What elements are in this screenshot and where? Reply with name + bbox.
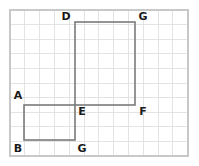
label-b: B <box>14 142 22 155</box>
figure-canvas: D G A E F B G <box>0 0 199 166</box>
label-e: E <box>78 105 86 118</box>
label-d: D <box>61 10 70 23</box>
label-g-bottom: G <box>77 142 86 155</box>
label-g-top: G <box>138 10 147 23</box>
label-f: F <box>139 105 147 118</box>
label-a: A <box>14 89 23 102</box>
geometry-figure: D G A E F B G <box>0 0 199 166</box>
